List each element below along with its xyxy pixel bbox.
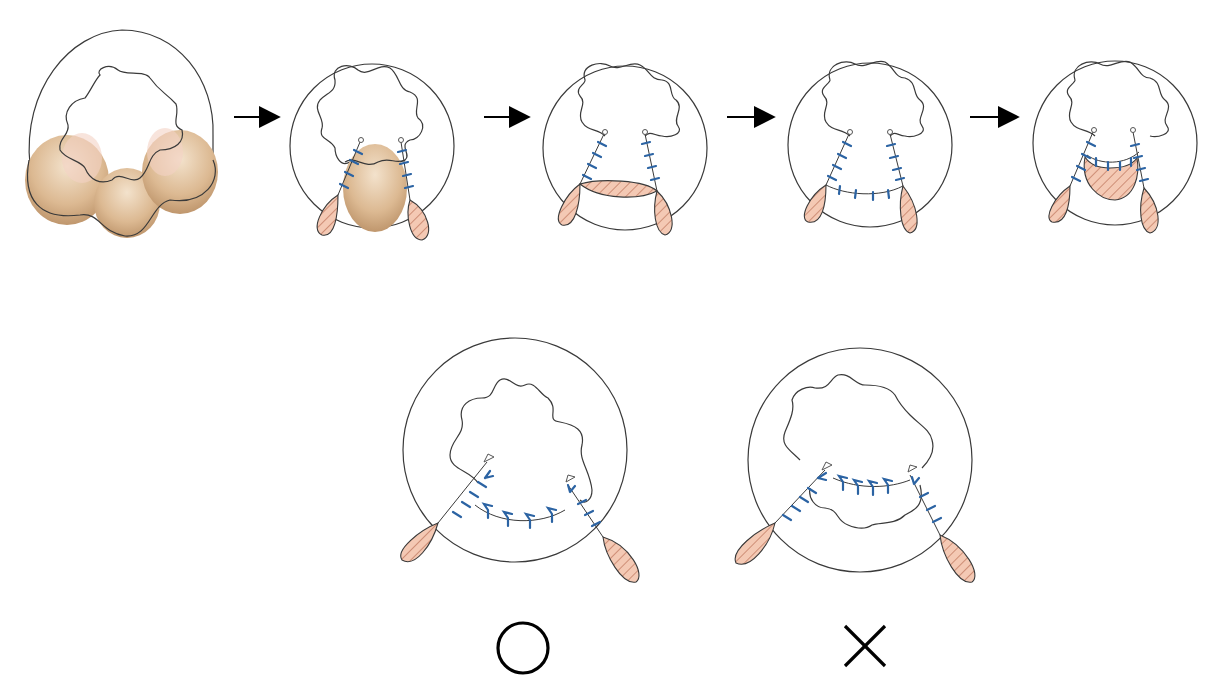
left-flap: [804, 185, 826, 222]
suture-line-left: [580, 130, 608, 185]
bridge-suture-thread: [826, 185, 903, 194]
inner-lumen: [578, 64, 679, 137]
right-flap: [900, 186, 917, 233]
invaginated-tissue: [1084, 157, 1138, 200]
bridge-sutures: [839, 476, 892, 495]
right-flap: [655, 191, 673, 235]
right-flap: [408, 200, 429, 240]
suture-line-left: [775, 462, 832, 523]
step-2-panel: [290, 64, 454, 240]
inner-lumen: [784, 375, 933, 528]
step-4-panel: [788, 61, 952, 233]
incorrect-symbol-icon: [845, 626, 885, 666]
left-flap: [558, 184, 580, 225]
right-flap: [940, 535, 975, 582]
suture-line-right: [642, 130, 659, 192]
suture-line-left: [826, 130, 853, 186]
step-5-panel: [1033, 61, 1197, 233]
suture-line-right: [566, 475, 603, 537]
step-1-panel: [25, 30, 218, 238]
right-flap: [1141, 188, 1159, 233]
suture-line-left: [438, 454, 494, 523]
suture-line-right: [887, 130, 904, 187]
central-flap: [580, 181, 657, 197]
left-flap: [317, 195, 338, 235]
correct-symbol-icon: [498, 623, 548, 673]
inner-lumen: [1067, 61, 1168, 136]
left-flap: [735, 523, 775, 564]
right-flap: [603, 537, 639, 582]
correct-example-panel: [401, 338, 639, 673]
incorrect-example-panel: [735, 348, 975, 666]
prolapsed-tissue: [25, 128, 218, 238]
prolapsed-tissue: [343, 144, 407, 232]
suture-line-right: [908, 465, 941, 535]
outer-ring: [748, 348, 972, 572]
step-3-panel: [543, 64, 707, 235]
inner-lumen: [450, 379, 592, 502]
left-flap: [401, 523, 438, 562]
surgical-procedure-diagram: [0, 0, 1213, 696]
left-flap: [1049, 186, 1070, 222]
